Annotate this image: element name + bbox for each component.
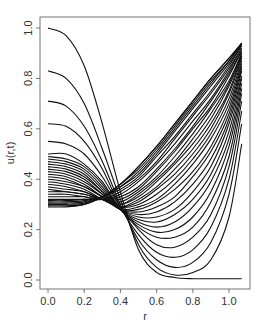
- x-tick-label: 1.0: [221, 295, 236, 307]
- x-tick-label: 0.0: [40, 295, 55, 307]
- chart: 0.00.20.40.60.81.0 0.00.20.40.60.81.0 r …: [0, 0, 264, 333]
- curve-family: [48, 28, 242, 279]
- y-axis: 0.00.20.40.60.81.0: [22, 20, 40, 287]
- y-tick-label: 0.2: [22, 222, 34, 237]
- x-tick-label: 0.2: [77, 295, 92, 307]
- curve-t4: [48, 101, 242, 248]
- x-axis-label: r: [143, 310, 147, 322]
- x-axis: 0.00.20.40.60.81.0: [40, 289, 236, 307]
- x-tick-label: 0.6: [149, 295, 164, 307]
- curve-t8: [48, 78, 242, 222]
- y-tick-label: 0.8: [22, 71, 34, 86]
- x-tick-label: 0.8: [185, 295, 200, 307]
- y-tick-label: 0.4: [22, 172, 34, 187]
- curve-t0: [48, 28, 242, 279]
- x-tick-label: 0.4: [113, 295, 128, 307]
- y-tick-label: 1.0: [22, 20, 34, 35]
- y-tick-label: 0.0: [22, 272, 34, 287]
- y-tick-label: 0.6: [22, 121, 34, 136]
- y-axis-label: u(r,t): [4, 142, 16, 165]
- curve-t22: [48, 48, 242, 199]
